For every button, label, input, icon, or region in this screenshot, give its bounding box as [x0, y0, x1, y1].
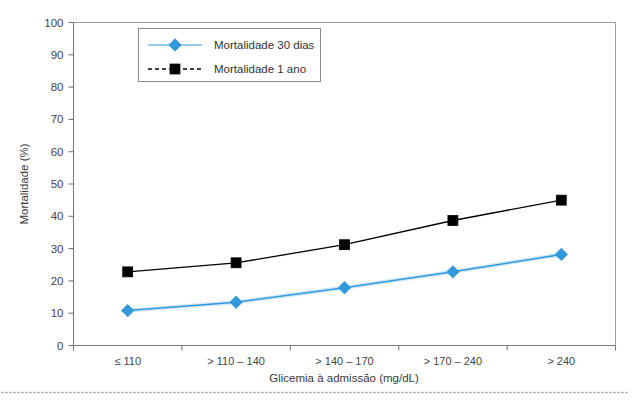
y-tick-label: 100	[44, 17, 63, 29]
legend-marker-swatch	[170, 64, 180, 74]
x-category-label: > 240	[547, 355, 575, 367]
legend-entry-2[interactable]: Mortalidade 1 ano	[148, 63, 306, 75]
legend-label: Mortalidade 1 ano	[214, 63, 306, 75]
mortality-line-chart: 0102030405060708090100 ≤ 110> 110 – 140>…	[0, 0, 632, 401]
legend-entry-1[interactable]: Mortalidade 30 dias	[148, 39, 315, 51]
data-point-marker	[448, 216, 458, 226]
y-tick-label: 60	[51, 146, 64, 158]
y-tick-label: 20	[51, 275, 64, 287]
x-category-label: ≤ 110	[114, 355, 141, 367]
y-tick-label: 40	[51, 210, 64, 222]
y-tick-label: 80	[51, 81, 64, 93]
data-point-marker	[231, 258, 241, 268]
x-axis-title: Glicemia à admissão (mg/dL)	[269, 372, 419, 384]
x-category-label: > 170 – 240	[424, 355, 482, 367]
y-tick-label: 50	[51, 178, 64, 190]
data-point-marker	[123, 267, 133, 277]
y-axis-title: Mortalidade (%)	[18, 143, 30, 224]
x-category-label: > 110 – 140	[207, 355, 265, 367]
chart-legend: Mortalidade 30 diasMortalidade 1 ano	[139, 29, 321, 82]
legend-label: Mortalidade 30 dias	[214, 39, 315, 51]
data-point-marker	[556, 195, 566, 205]
x-category-label: > 140 – 170	[315, 355, 373, 367]
y-tick-label: 70	[51, 113, 64, 125]
data-point-marker	[340, 240, 350, 250]
y-tick-label: 0	[57, 340, 63, 352]
y-tick-label: 30	[51, 243, 64, 255]
y-tick-label: 10	[51, 307, 64, 319]
y-tick-label: 90	[51, 49, 64, 61]
chart-container: 0102030405060708090100 ≤ 110> 110 – 140>…	[0, 0, 632, 401]
